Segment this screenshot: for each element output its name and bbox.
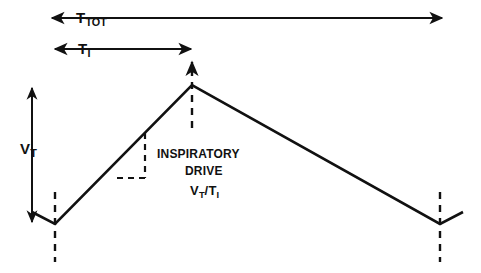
label-t-i-base: T	[78, 40, 87, 57]
label-inspiratory-drive-formula: VT/TI	[190, 184, 219, 197]
formula-denominator-base: T	[208, 183, 216, 198]
label-v-t-sub: T	[30, 147, 37, 159]
formula-numerator-base: V	[190, 183, 199, 198]
label-inspiratory: INSPIRATORY	[157, 148, 240, 160]
label-t-i-sub: I	[87, 47, 90, 59]
label-t-i: TI	[78, 41, 90, 56]
formula-denominator-sub: I	[217, 190, 220, 200]
formula-numerator-sub: T	[199, 190, 205, 200]
label-drive: DRIVE	[185, 165, 223, 177]
label-t-tot-sub: TOT	[85, 16, 106, 28]
respiratory-waveform-figure: TTOT TI VT INSPIRATORY DRIVE VT/TI	[0, 0, 481, 273]
label-t-tot-base: T	[76, 9, 85, 26]
tidal-volume-trace	[32, 85, 463, 224]
label-v-t-base: V	[20, 140, 30, 157]
waveform-canvas	[0, 0, 481, 273]
label-v-t: VT	[20, 141, 37, 156]
label-t-tot: TTOT	[76, 10, 107, 25]
